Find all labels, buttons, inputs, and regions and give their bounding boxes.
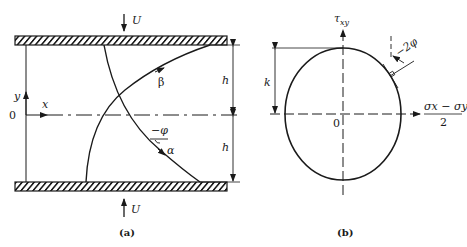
k-label: k — [264, 76, 271, 89]
sigma-axis-denominator: 2 — [440, 116, 447, 129]
top-plate — [15, 36, 227, 45]
origin-label-b: 0 — [333, 117, 340, 130]
bottom-plate — [15, 182, 227, 191]
x-axis-label: x — [42, 98, 49, 111]
alpha-line — [104, 45, 200, 182]
figure-a: U U y x 0 α β −φ h h (a) — [9, 14, 240, 238]
2phi-normal-line — [390, 61, 414, 76]
figure-b: τxy σx − σy 2 0 k −2φ (b) — [264, 12, 467, 238]
caption-a: (a) — [119, 227, 135, 238]
beta-line — [86, 45, 210, 182]
tau-axis-label: τxy — [334, 12, 350, 27]
phi-label: −φ — [151, 124, 168, 137]
origin-label: 0 — [9, 109, 16, 122]
bottom-velocity-label: U — [131, 203, 141, 216]
top-velocity-label: U — [132, 14, 142, 27]
h-bottom-label: h — [222, 141, 229, 154]
h-top-label: h — [222, 74, 229, 87]
sigma-axis-numerator: σx − σy — [424, 100, 467, 113]
tangent-marker — [383, 64, 398, 88]
beta-label: β — [158, 76, 164, 89]
y-axis-label: y — [13, 90, 21, 103]
figure-canvas: U U y x 0 α β −φ h h (a) — [0, 0, 467, 247]
alpha-label: α — [167, 144, 175, 157]
caption-b: (b) — [337, 227, 353, 238]
alpha-arrow — [158, 149, 165, 155]
2phi-label: −2φ — [393, 35, 420, 60]
phi-arc — [155, 140, 160, 143]
